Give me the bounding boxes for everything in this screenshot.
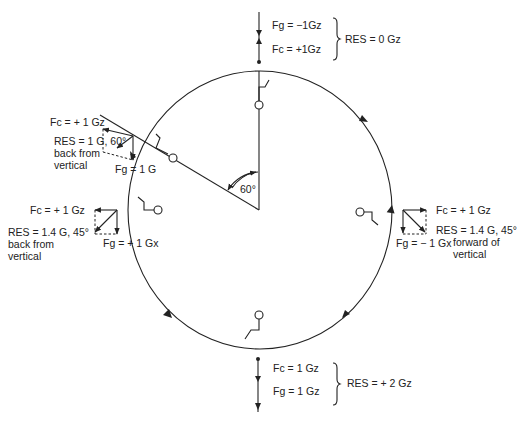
ul-res-line1: RES = 1 G, 60° bbox=[54, 135, 126, 147]
bottom-fg-label: Fg = 1 Gz bbox=[273, 385, 319, 397]
left-force-vectors: Fc = + 1 Gz RES = 1.4 G, 45° back from v… bbox=[8, 204, 159, 262]
right-res-line1: RES = 1.4 G, 45° bbox=[436, 224, 517, 236]
ul-res-line3: vertical bbox=[54, 159, 87, 171]
direction-arrows bbox=[130, 115, 396, 318]
ul-fg-label: Fg = 1 G bbox=[115, 163, 156, 175]
diagram-canvas: 60° Fg = −1Gz Fc = +1Gz RES = 0 Gz bbox=[0, 0, 526, 421]
loop-force-diagram: 60° Fg = −1Gz Fc = +1Gz RES = 0 Gz bbox=[0, 0, 526, 421]
top-fg-label: Fg = −1Gz bbox=[272, 19, 322, 31]
ul-fc-label: Fc = + 1 Gz bbox=[50, 116, 105, 128]
angle-label: 60° bbox=[240, 183, 256, 195]
right-force-vectors: Fc = + 1 Gz RES = 1.4 G, 45° forward of … bbox=[396, 204, 517, 260]
flight-path-circle bbox=[128, 71, 392, 349]
top-res-label: RES = 0 Gz bbox=[345, 33, 401, 45]
left-res-line3: vertical bbox=[8, 250, 41, 262]
right-fc-label: Fc = + 1 Gz bbox=[436, 204, 491, 216]
pilot-icon-upper-left bbox=[156, 134, 177, 162]
pilot-icon-top bbox=[255, 80, 269, 109]
left-fc-label: Fc = + 1 Gz bbox=[30, 204, 85, 216]
bottom-res-label: RES = + 2 Gz bbox=[347, 377, 412, 389]
pilot-icon-bottom bbox=[245, 311, 263, 339]
right-fg-label: Fg = − 1 Gx bbox=[396, 237, 452, 249]
pilot-icon-right bbox=[356, 208, 378, 225]
bottom-fc-label: Fc = 1 Gz bbox=[273, 362, 319, 374]
top-force-vectors: Fg = −1Gz Fc = +1Gz RES = 0 Gz bbox=[256, 12, 401, 64]
bottom-force-vectors: Fc = 1 Gz Fg = 1 Gz RES = + 2 Gz bbox=[255, 357, 412, 412]
left-fg-label: Fg = + 1 Gx bbox=[103, 237, 159, 249]
ul-res-line2: back from bbox=[54, 147, 100, 159]
left-res-line2: back from bbox=[8, 238, 54, 250]
left-res-line1: RES = 1.4 G, 45° bbox=[8, 226, 89, 238]
pilot-icon-left bbox=[138, 197, 162, 214]
upper-left-force-vectors: Fc = + 1 Gz RES = 1 G, 60° back from ver… bbox=[50, 116, 156, 175]
right-res-line3: vertical bbox=[453, 248, 486, 260]
top-fc-label: Fc = +1Gz bbox=[272, 43, 321, 55]
right-res-line2: forward of bbox=[453, 236, 500, 248]
